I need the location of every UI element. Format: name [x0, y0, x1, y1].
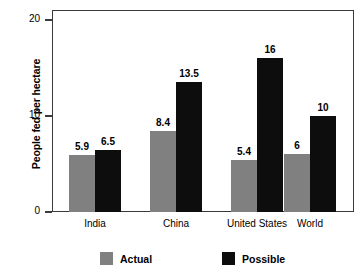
legend-swatch-actual: [100, 252, 113, 265]
legend-item-possible[interactable]: Possible: [222, 252, 285, 265]
x-label-india: India: [50, 218, 140, 229]
bar-india-possible: [95, 150, 121, 212]
bar-united-states-actual: [231, 160, 257, 212]
chart-legend: ActualPossible: [0, 252, 363, 274]
bar-value-label: 13.5: [169, 68, 209, 79]
bar-value-label: 10: [303, 102, 343, 113]
bar-world-possible: [310, 116, 336, 212]
x-label-china: China: [131, 218, 221, 229]
x-label-world: World: [265, 218, 355, 229]
legend-label: Actual: [120, 253, 152, 265]
bar-united-states-possible: [257, 58, 283, 212]
legend-item-actual[interactable]: Actual: [100, 252, 152, 265]
legend-label: Possible: [242, 253, 285, 265]
legend-swatch-possible: [222, 252, 235, 265]
bar-china-possible: [176, 82, 202, 212]
bar-india-actual: [69, 155, 95, 212]
bars-layer: 5.96.58.413.55.416610: [0, 0, 363, 278]
bar-chart: People fed per hectare 01020 5.96.58.413…: [0, 0, 363, 278]
bar-value-label: 16: [250, 44, 290, 55]
bar-china-actual: [150, 131, 176, 212]
bar-value-label: 6.5: [88, 136, 128, 147]
bar-world-actual: [284, 154, 310, 212]
